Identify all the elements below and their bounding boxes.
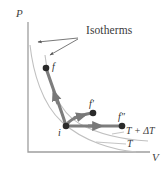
point-label-f-prime: f′ (89, 99, 94, 109)
point-marker-i (63, 123, 70, 130)
point-label-f: f (52, 62, 55, 72)
point-marker-f-double-prime (119, 123, 126, 130)
isotherm-label-T-plus-delta-T: T + ΔT (126, 126, 155, 136)
isotherms-label: Isotherms (86, 25, 132, 37)
process-arrow-i-to-fprime (74, 115, 84, 118)
pv-diagram-figure: P V Isotherms f i f′ f″ T + ΔT T (0, 0, 168, 174)
label-leader-T (96, 142, 126, 144)
point-label-f-double-prime: f″ (118, 112, 125, 122)
point-marker-f (43, 65, 50, 72)
isotherms-annotation-arrows (38, 38, 78, 55)
point-marker-f-prime (90, 110, 97, 117)
isotherms-arrow-left (38, 38, 78, 42)
isotherm-label-T: T (127, 139, 133, 149)
isotherms-arrow-right (50, 39, 78, 55)
label-leader-T-plus-dT (112, 132, 124, 134)
point-label-i: i (58, 128, 61, 138)
axis-label-pressure: P (16, 8, 23, 19)
process-arrow-i-to-f (54, 93, 58, 104)
diagram-canvas (0, 0, 168, 174)
axis-label-volume: V (152, 152, 159, 163)
